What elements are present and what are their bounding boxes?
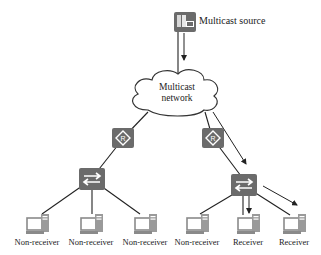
link-switch-left-pc1 [42, 186, 82, 214]
host-label: Non-receiver [123, 237, 168, 247]
pc-icon [134, 214, 157, 234]
pc-icon [283, 214, 306, 234]
svg-text:R: R [210, 135, 215, 142]
host-label: Non-receiver [175, 237, 220, 247]
link-switch-left-pc3 [101, 186, 140, 214]
host-label: Receiver [279, 237, 309, 247]
flow-arrow-receiver-2 [263, 186, 297, 205]
pc-icon [186, 214, 209, 234]
network-label: Multicast network [142, 82, 212, 104]
pc-icon [26, 214, 49, 234]
source-label: Multicast source [199, 15, 265, 26]
svg-text:R: R [120, 135, 125, 142]
pc-icon [237, 214, 260, 234]
link-switch-right-pc4 [200, 192, 237, 214]
network-label-line2: network [142, 93, 212, 104]
host-label: Receiver [233, 237, 263, 247]
network-label-line1: Multicast [142, 82, 212, 93]
router-icon: R [112, 128, 134, 148]
pc-icon [80, 214, 103, 234]
server-icon [174, 12, 196, 32]
router-icon: R [202, 128, 224, 148]
host-label: Non-receiver [15, 237, 60, 247]
topology-canvas: R R [0, 0, 321, 255]
switch-icon [79, 168, 105, 190]
host-label: Non-receiver [69, 237, 114, 247]
link-switch-right-pc6 [254, 192, 290, 215]
switch-icon [231, 174, 257, 196]
